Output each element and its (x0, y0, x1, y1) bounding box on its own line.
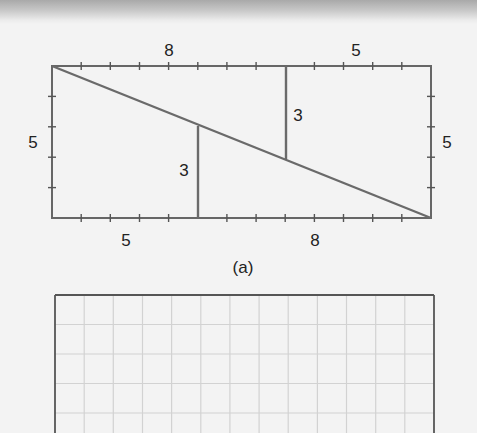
figure-canvas: 8 5 5 8 5 5 3 3 (a) (0, 0, 477, 433)
right-inner-label-3: 3 (293, 106, 302, 125)
graph-paper-grid (55, 295, 434, 433)
top-label-8: 8 (164, 41, 173, 60)
left-inner-label-3: 3 (179, 161, 188, 180)
figure-a-cut-lines (52, 66, 431, 218)
bottom-label-8: 8 (310, 231, 319, 250)
diagonal-line (52, 66, 431, 218)
right-label-5: 5 (442, 133, 451, 152)
top-label-5: 5 (351, 41, 360, 60)
left-label-5: 5 (28, 133, 37, 152)
bottom-label-5: 5 (121, 231, 130, 250)
figure-caption: (a) (233, 258, 254, 277)
